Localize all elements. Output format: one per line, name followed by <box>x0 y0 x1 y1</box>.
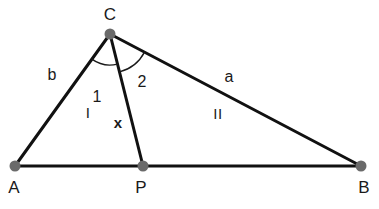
angle-arc-2 <box>119 52 144 72</box>
vertex-dot-P <box>138 161 149 172</box>
vertex-label-P: P <box>135 179 146 196</box>
vertex-dot-C <box>105 29 116 40</box>
segment-CB-side-a <box>110 34 361 166</box>
triangle-edges <box>15 34 361 166</box>
angle-label-1: 1 <box>93 89 102 105</box>
region-label-I: I <box>86 105 91 120</box>
angle-arc-1 <box>92 59 118 65</box>
segment-CP-cevian <box>110 34 143 166</box>
vertex-label-B: B <box>358 179 369 196</box>
vertex-label-A: A <box>8 179 19 196</box>
side-label-a: a <box>225 69 234 85</box>
vertex-dot-B <box>356 161 367 172</box>
vertex-label-C: C <box>104 6 116 23</box>
segment-label-x: x <box>114 115 122 130</box>
geometry-diagram: C A P B b a x 1 2 I II <box>0 0 379 209</box>
vertex-dot-A <box>10 161 21 172</box>
region-label-II: II <box>213 106 222 121</box>
triangle-canvas <box>0 0 379 209</box>
side-label-b: b <box>48 67 57 83</box>
angle-label-2: 2 <box>138 74 147 90</box>
